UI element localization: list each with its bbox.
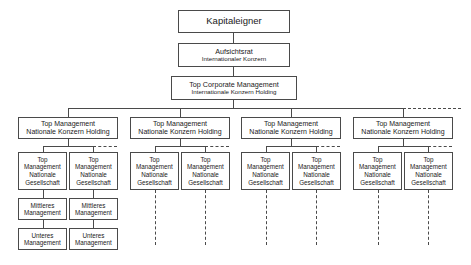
node-gesellschaft-1a[interactable]: Top Management Nationale Gesellschaft xyxy=(18,152,67,190)
node-gesellschaft-3b-line4: Gesellschaft xyxy=(299,179,334,187)
sub-distribution-bar-3-dashed-extension xyxy=(316,146,340,147)
node-gesellschaft-1a-line1: Top xyxy=(37,156,47,164)
sub-distribution-bar-4-dashed-extension xyxy=(428,146,452,147)
node-gesellschaft-3b-line3: Nationale xyxy=(303,171,330,179)
node-holding-3-line2: Nationale Konzern Holding xyxy=(249,128,332,136)
node-mittleres-1b-line1: Mittleres xyxy=(82,202,106,209)
node-gesellschaft-1b-line3: Nationale xyxy=(80,171,107,179)
node-gesellschaft-2b-line4: Gesellschaft xyxy=(188,179,223,187)
node-gesellschaft-4a-line2: Management xyxy=(359,163,396,171)
node-unteres-1b-line2: Management xyxy=(75,239,112,246)
node-holding-3[interactable]: Top Management Nationale Konzern Holding xyxy=(241,117,341,139)
connector-mittleres-1b-to-unteres xyxy=(93,220,94,228)
distribution-bar-holdings xyxy=(68,108,403,109)
node-gesellschaft-4a[interactable]: Top Management Nationale Gesellschaft xyxy=(353,152,402,190)
node-gesellschaft-3a-line1: Top xyxy=(260,156,270,164)
node-holding-4-line1: Top Management xyxy=(376,120,430,128)
sub-distribution-bar-4 xyxy=(378,146,428,147)
node-gesellschaft-3a-line4: Gesellschaft xyxy=(248,179,283,187)
node-holding-1-line2: Nationale Konzern Holding xyxy=(26,128,109,136)
node-gesellschaft-4a-line1: Top xyxy=(372,156,382,164)
node-gesellschaft-1b[interactable]: Top Management Nationale Gesellschaft xyxy=(69,152,118,190)
connector-holding-1-down xyxy=(68,139,69,146)
node-gesellschaft-1b-line1: Top xyxy=(88,156,98,164)
collapsed-branch-indicator-3b xyxy=(316,190,317,245)
node-unteres-1b[interactable]: Unteres Management xyxy=(69,228,118,250)
connector-root-to-aufsichtsrat xyxy=(233,33,234,43)
connector-bar-to-holding-4 xyxy=(403,108,404,117)
node-mittleres-1a-line1: Mittleres xyxy=(31,202,55,209)
node-gesellschaft-3b[interactable]: Top Management Nationale Gesellschaft xyxy=(292,152,341,190)
node-gesellschaft-2a-line3: Nationale xyxy=(141,171,168,179)
sub-distribution-bar-2-dashed-extension xyxy=(205,146,229,147)
collapsed-branch-indicator-2a xyxy=(155,190,156,245)
node-gesellschaft-1a-line2: Management xyxy=(24,163,61,171)
distribution-bar-holdings-dashed-extension xyxy=(403,108,461,109)
node-top-corporate-management[interactable]: Top Corporate Management Internationale … xyxy=(171,76,297,100)
connector-gesellschaft-1a-to-mittleres xyxy=(43,190,44,198)
node-mittleres-1b-line2: Management xyxy=(75,209,112,216)
node-holding-1[interactable]: Top Management Nationale Konzern Holding xyxy=(18,117,118,139)
node-gesellschaft-2b-line2: Management xyxy=(187,163,224,171)
connector-holding-3-down xyxy=(291,139,292,146)
node-gesellschaft-2b-line3: Nationale xyxy=(192,171,219,179)
node-gesellschaft-2a-line2: Management xyxy=(136,163,173,171)
node-gesellschaft-1b-line4: Gesellschaft xyxy=(76,179,111,187)
node-aufsichtsrat-line2: Internationaler Konzern xyxy=(202,56,266,63)
node-mittleres-1a[interactable]: Mittleres Management xyxy=(18,198,67,220)
node-holding-2[interactable]: Top Management Nationale Konzern Holding xyxy=(130,117,230,139)
connector-bar-to-holding-1 xyxy=(68,108,69,117)
node-gesellschaft-2a-line4: Gesellschaft xyxy=(137,179,172,187)
node-gesellschaft-3a-line3: Nationale xyxy=(252,171,279,179)
collapsed-branch-indicator-2b xyxy=(205,190,206,245)
connector-bar-to-holding-2 xyxy=(180,108,181,117)
node-holding-4-line2: Nationale Konzern Holding xyxy=(361,128,444,136)
org-chart-canvas: Kapitaleigner Aufsichtsrat International… xyxy=(0,0,471,265)
connector-bar-to-holding-3 xyxy=(291,108,292,117)
node-holding-2-line1: Top Management xyxy=(153,120,207,128)
node-gesellschaft-4a-line4: Gesellschaft xyxy=(360,179,395,187)
node-unteres-1b-line1: Unteres xyxy=(82,232,104,239)
node-mittleres-1b[interactable]: Mittleres Management xyxy=(69,198,118,220)
node-gesellschaft-1a-line4: Gesellschaft xyxy=(25,179,60,187)
connector-aufsichtsrat-to-top-corporate xyxy=(233,67,234,76)
node-gesellschaft-1b-line2: Management xyxy=(75,163,112,171)
node-gesellschaft-3a-line2: Management xyxy=(247,163,284,171)
node-gesellschaft-3b-line2: Management xyxy=(298,163,335,171)
node-holding-4[interactable]: Top Management Nationale Konzern Holding xyxy=(353,117,453,139)
node-gesellschaft-2b-line1: Top xyxy=(200,156,210,164)
collapsed-branch-indicator-4a xyxy=(378,190,379,245)
node-unteres-1a-line2: Management xyxy=(24,239,61,246)
connector-mittleres-1a-to-unteres xyxy=(43,220,44,228)
node-gesellschaft-4b-line3: Nationale xyxy=(415,171,442,179)
sub-distribution-bar-1-dashed-extension xyxy=(93,146,117,147)
collapsed-branch-indicator-4b xyxy=(428,190,429,245)
node-kapitaleigner-label: Kapitaleigner xyxy=(206,16,261,27)
node-gesellschaft-2b[interactable]: Top Management Nationale Gesellschaft xyxy=(181,152,230,190)
node-holding-2-line2: Nationale Konzern Holding xyxy=(138,128,221,136)
sub-distribution-bar-2 xyxy=(155,146,205,147)
node-gesellschaft-3b-line1: Top xyxy=(311,156,321,164)
node-holding-3-line1: Top Management xyxy=(264,120,318,128)
node-kapitaleigner[interactable]: Kapitaleigner xyxy=(178,10,290,33)
sub-distribution-bar-3 xyxy=(266,146,316,147)
node-gesellschaft-2a[interactable]: Top Management Nationale Gesellschaft xyxy=(130,152,179,190)
connector-holding-2-down xyxy=(180,139,181,146)
node-gesellschaft-4b-line2: Management xyxy=(410,163,447,171)
connector-top-corporate-down xyxy=(233,100,234,108)
node-gesellschaft-1a-line3: Nationale xyxy=(29,171,56,179)
node-gesellschaft-2a-line1: Top xyxy=(149,156,159,164)
node-gesellschaft-3a[interactable]: Top Management Nationale Gesellschaft xyxy=(241,152,290,190)
node-gesellschaft-4b-line1: Top xyxy=(423,156,433,164)
node-holding-1-line1: Top Management xyxy=(41,120,95,128)
node-gesellschaft-4a-line3: Nationale xyxy=(364,171,391,179)
node-unteres-1a-line1: Unteres xyxy=(31,232,53,239)
node-unteres-1a[interactable]: Unteres Management xyxy=(18,228,67,250)
node-gesellschaft-4b[interactable]: Top Management Nationale Gesellschaft xyxy=(404,152,453,190)
node-top-corporate-line2: Internationale Konzern Holding xyxy=(192,89,277,96)
sub-distribution-bar-1 xyxy=(43,146,93,147)
connector-holding-4-down xyxy=(403,139,404,146)
node-aufsichtsrat[interactable]: Aufsichtsrat Internationaler Konzern xyxy=(178,43,290,67)
connector-gesellschaft-1b-to-mittleres xyxy=(93,190,94,198)
node-gesellschaft-4b-line4: Gesellschaft xyxy=(411,179,446,187)
